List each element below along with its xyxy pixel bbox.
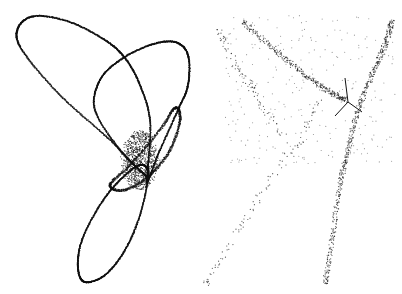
attractor-plot-left [0,0,201,294]
scatter-right [201,0,402,294]
figure [0,0,402,294]
attractor-plot-right [201,0,402,294]
scatter-left [0,0,201,294]
